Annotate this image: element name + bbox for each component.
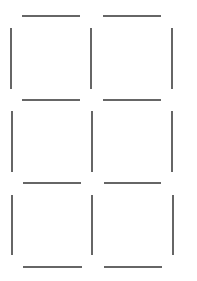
matchstick-grid (0, 0, 197, 281)
